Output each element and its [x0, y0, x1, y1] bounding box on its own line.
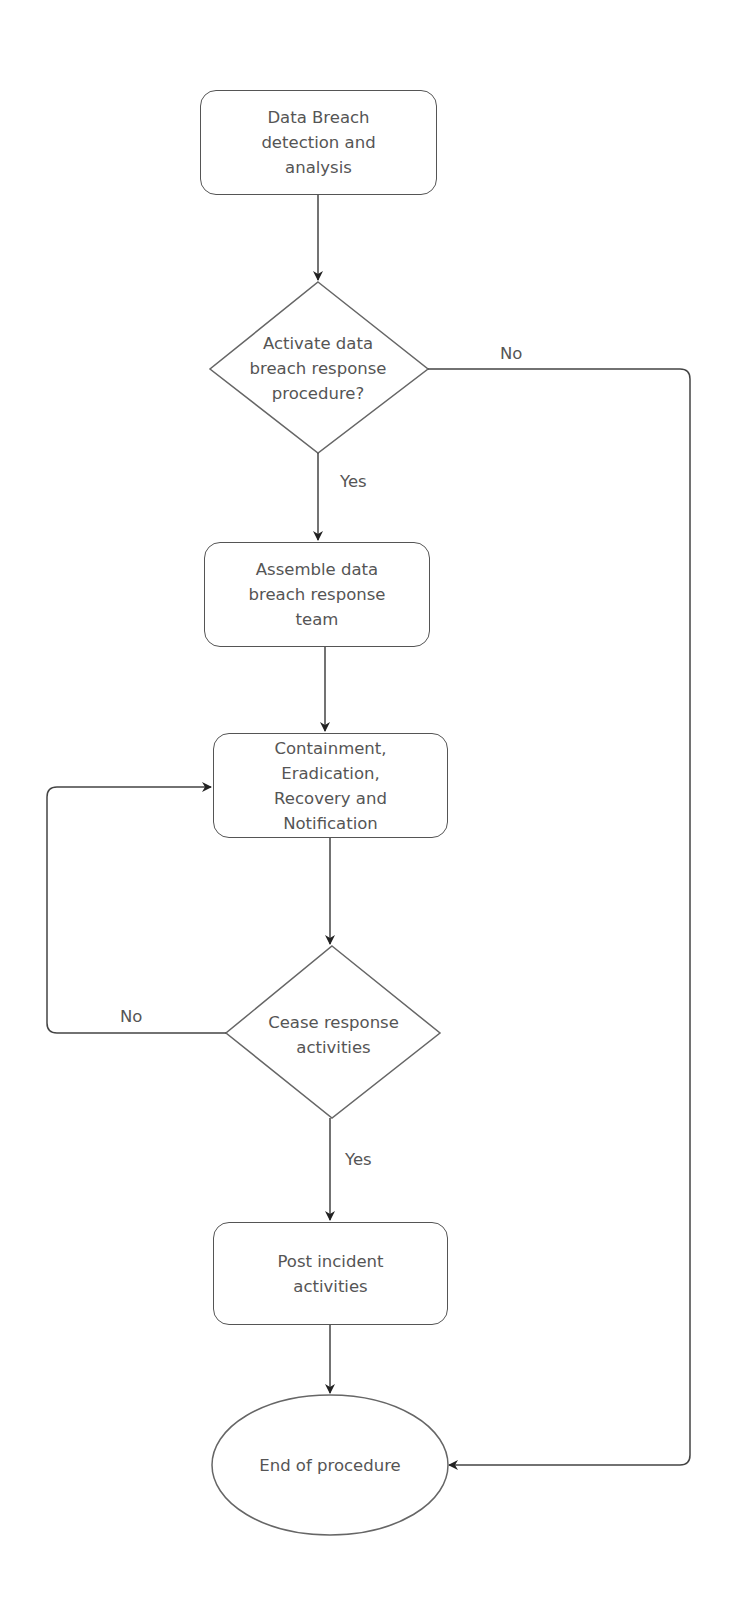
node-end-text: End of procedure [259, 1453, 400, 1478]
node-activate-text: Activate data breach response procedure? [238, 331, 398, 406]
node-post-text: Post incident activities [261, 1249, 401, 1299]
node-detect-text: Data Breach detection and analysis [244, 105, 394, 180]
node-contain-text: Containment, Eradication, Recovery and N… [256, 736, 406, 836]
node-cease-text: Cease response activities [254, 1010, 414, 1060]
edge-label-cease-yes: Yes [345, 1150, 372, 1169]
edge-activate-end [428, 369, 690, 1465]
node-cease: Cease response activities [236, 1000, 431, 1070]
node-activate: Activate data breach response procedure? [218, 320, 418, 416]
edge-label-cease-no: No [120, 1007, 142, 1026]
node-assemble: Assemble data breach response team [204, 542, 430, 647]
edge-cease-contain [47, 787, 226, 1033]
edge-label-activate-no: No [500, 344, 522, 363]
node-assemble-text: Assemble data breach response team [235, 557, 400, 632]
node-contain: Containment, Eradication, Recovery and N… [213, 733, 448, 838]
node-end: End of procedure [212, 1440, 448, 1490]
node-post: Post incident activities [213, 1222, 448, 1325]
node-detect: Data Breach detection and analysis [200, 90, 437, 195]
edge-label-activate-yes: Yes [340, 472, 367, 491]
